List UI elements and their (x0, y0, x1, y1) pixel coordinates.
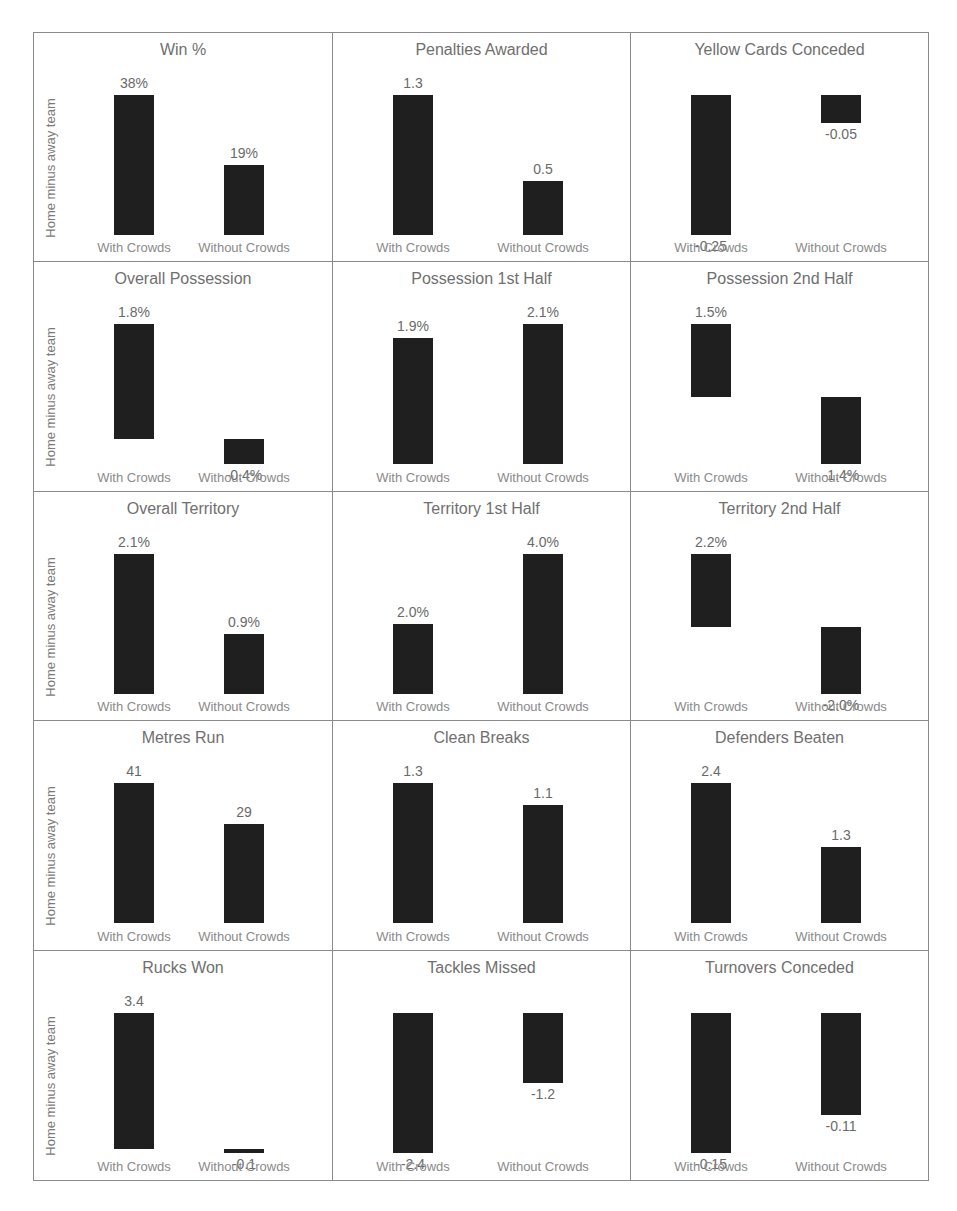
chart-panel: Metres RunHome minus away team4129With C… (34, 721, 333, 950)
plot-area: 3.4-0.1 (34, 991, 332, 1151)
plot-area: 2.41.3 (631, 761, 928, 921)
plot-area: 1.9%2.1% (333, 302, 630, 462)
panel-title: Territory 2nd Half (631, 500, 928, 518)
bar-without-crowds (523, 324, 563, 464)
plot-area: 1.31.1 (333, 761, 630, 921)
plot-area: -2.4-1.2 (333, 991, 630, 1151)
value-label: 1.3 (801, 827, 881, 843)
bar-with-crowds (691, 554, 731, 627)
category-label: With Crowds (646, 1159, 776, 1174)
value-label: 4.0% (503, 534, 583, 550)
bar-without-crowds (821, 627, 861, 694)
category-label: With Crowds (646, 240, 776, 255)
value-label: 0.5 (503, 161, 583, 177)
plot-area: 4129 (34, 761, 332, 921)
chart-panel: Territory 2nd Half2.2%-2.0%With CrowdsWi… (631, 492, 928, 721)
category-label: Without Crowds (776, 1159, 906, 1174)
bar-without-crowds (821, 397, 861, 465)
plot-area: -0.15-0.11 (631, 991, 928, 1151)
category-label: With Crowds (646, 470, 776, 485)
value-label: 2.2% (671, 534, 751, 550)
bar-with-crowds (393, 1013, 433, 1153)
category-label: With Crowds (348, 470, 478, 485)
bar-with-crowds (114, 783, 154, 923)
value-label: 41 (94, 763, 174, 779)
panel-title: Yellow Cards Conceded (631, 41, 928, 59)
bar-with-crowds (393, 624, 433, 694)
chart-panel: Territory 1st Half2.0%4.0%With CrowdsWit… (333, 492, 631, 721)
category-label: Without Crowds (776, 240, 906, 255)
bar-without-crowds (224, 165, 264, 235)
category-label: With Crowds (348, 929, 478, 944)
category-label: Without Crowds (478, 699, 608, 714)
category-label: Without Crowds (776, 699, 906, 714)
plot-area: 2.2%-2.0% (631, 532, 928, 692)
value-label: -0.05 (801, 126, 881, 142)
plot-area: 2.1%0.9% (34, 532, 332, 692)
category-label: With Crowds (646, 699, 776, 714)
chart-panel: Clean Breaks1.31.1With CrowdsWithout Cro… (333, 721, 631, 950)
bar-without-crowds (224, 439, 264, 464)
panel-title: Possession 2nd Half (631, 270, 928, 288)
bar-with-crowds (691, 783, 731, 923)
category-label: Without Crowds (478, 1159, 608, 1174)
value-label: 2.0% (373, 604, 453, 620)
category-label: With Crowds (646, 929, 776, 944)
chart-panel: Penalties Awarded1.30.5With CrowdsWithou… (333, 33, 631, 262)
panel-title: Metres Run (34, 729, 332, 747)
value-label: -1.2 (503, 1086, 583, 1102)
category-label: With Crowds (348, 699, 478, 714)
bar-without-crowds (224, 824, 264, 923)
panel-title: Overall Possession (34, 270, 332, 288)
panel-title: Overall Territory (34, 500, 332, 518)
value-label: 0.9% (204, 614, 284, 630)
value-label: 1.1 (503, 785, 583, 801)
chart-panel: Defenders Beaten2.41.3With CrowdsWithout… (631, 721, 928, 950)
small-multiples-grid: Win %Home minus away team38%19%With Crow… (33, 32, 929, 1181)
category-label: With Crowds (348, 1159, 478, 1174)
category-label: Without Crowds (179, 699, 309, 714)
value-label: 1.3 (373, 763, 453, 779)
bar-without-crowds (821, 847, 861, 923)
chart-panel: Tackles Missed-2.4-1.2With CrowdsWithout… (333, 951, 631, 1180)
panel-title: Win % (34, 41, 332, 59)
plot-area: 1.5%-1.4% (631, 302, 928, 462)
bar-with-crowds (114, 554, 154, 694)
panel-title: Clean Breaks (333, 729, 630, 747)
panel-title: Possession 1st Half (333, 270, 630, 288)
value-label: 1.5% (671, 304, 751, 320)
plot-area: 1.8%-0.4% (34, 302, 332, 462)
chart-panel: Win %Home minus away team38%19%With Crow… (34, 33, 333, 262)
bar-with-crowds (691, 1013, 731, 1153)
category-label: Without Crowds (776, 929, 906, 944)
bar-without-crowds (821, 95, 861, 123)
value-label: 1.8% (94, 304, 174, 320)
bar-without-crowds (224, 1149, 264, 1153)
value-label: 2.1% (503, 304, 583, 320)
value-label: 2.1% (94, 534, 174, 550)
plot-area: 38%19% (34, 73, 332, 233)
category-label: Without Crowds (179, 470, 309, 485)
panel-title: Territory 1st Half (333, 500, 630, 518)
value-label: 1.3 (373, 75, 453, 91)
value-label: 2.4 (671, 763, 751, 779)
bar-with-crowds (393, 95, 433, 235)
plot-area: 1.30.5 (333, 73, 630, 233)
panel-title: Defenders Beaten (631, 729, 928, 747)
category-label: Without Crowds (179, 1159, 309, 1174)
category-label: With Crowds (348, 240, 478, 255)
category-label: Without Crowds (478, 240, 608, 255)
bar-without-crowds (224, 634, 264, 694)
bar-with-crowds (114, 1013, 154, 1149)
category-label: Without Crowds (478, 929, 608, 944)
bar-with-crowds (691, 95, 731, 235)
chart-panel: Possession 2nd Half1.5%-1.4%With CrowdsW… (631, 262, 928, 491)
panel-title: Rucks Won (34, 959, 332, 977)
value-label: -0.11 (801, 1118, 881, 1134)
bar-with-crowds (114, 95, 154, 235)
panel-title: Tackles Missed (333, 959, 630, 977)
value-label: 1.9% (373, 318, 453, 334)
panel-title: Turnovers Conceded (631, 959, 928, 977)
value-label: 3.4 (94, 993, 174, 1009)
bar-without-crowds (523, 554, 563, 694)
